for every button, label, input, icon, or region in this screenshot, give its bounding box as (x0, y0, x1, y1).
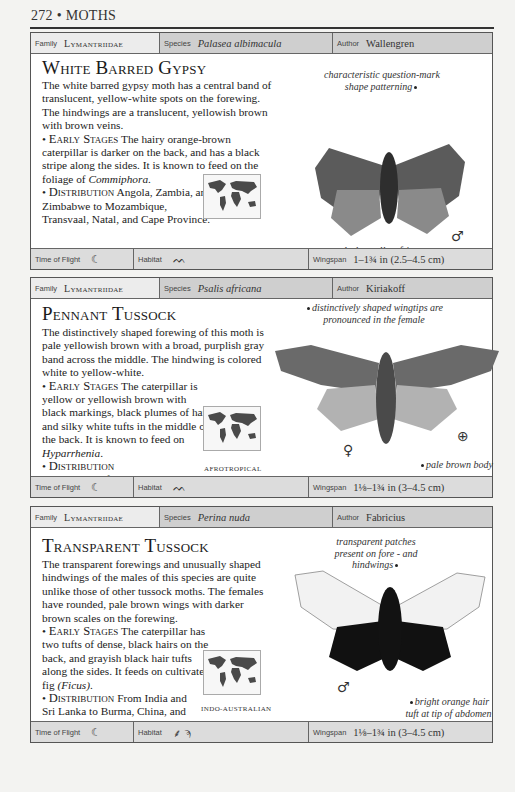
moon-icon: ☾ (91, 253, 101, 266)
moon-icon: ☾ (91, 726, 101, 739)
world-map-icon (204, 651, 260, 694)
moon-icon: ☾ (91, 481, 101, 494)
species-cell: SpeciesPerina nuda (160, 507, 333, 527)
family-cell: FamilyLymantriidae (31, 507, 160, 527)
female-symbol-icon: ♀ (343, 442, 353, 458)
intro-text: The white barred gypsy moth has a centra… (42, 79, 271, 131)
male-symbol-icon: ♂ (451, 228, 464, 244)
wingspan-cell: Wingspan1⅛–1¾ in (3–4.5 cm) (309, 477, 492, 497)
magnifier-icon: ⊕ (457, 428, 469, 444)
species-cell: SpeciesPsalis africana (160, 278, 333, 298)
time-of-flight-cell: Time of Flight☾ (31, 722, 134, 742)
species-cell: SpeciesPalasea albimacula (160, 33, 333, 53)
grassland-icon: ᨓ (173, 481, 186, 494)
world-map-icon (204, 407, 260, 450)
species-entry-transparent-tussock: FamilyLymantriidae SpeciesPerina nuda Au… (30, 506, 493, 743)
world-map (203, 174, 261, 219)
male-symbol-icon: ♂ (337, 679, 350, 695)
world-map (203, 650, 261, 695)
taxonomy-bar: FamilyLymantriidae SpeciesPalasea albima… (31, 33, 492, 54)
world-map-icon (204, 175, 260, 218)
species-title: Transparent Tussock (42, 535, 209, 557)
species-title: Pennant Tussock (42, 303, 176, 325)
moth-illustration (293, 567, 488, 682)
annotation: bright orange hair tuft at tip of abdome… (401, 696, 496, 719)
taxonomy-bar: FamilyLymantriidae SpeciesPsalis african… (31, 278, 492, 299)
wingspan-cell: Wingspan1–1¾ in (2.5–4.5 cm) (309, 249, 492, 269)
region-label: AFROTROPICAL (204, 465, 262, 473)
moth-illustration (309, 128, 469, 238)
annotation: transparent patches present on fore - an… (331, 536, 421, 571)
habitat-cell: Habitat⸙ϡ (134, 722, 309, 742)
grassland-icon: ᨓ (173, 253, 186, 266)
page-header: 272 • MOTHS (31, 8, 116, 24)
world-map (203, 406, 261, 451)
species-entry-pennant-tussock: FamilyLymantriidae SpeciesPsalis african… (30, 277, 493, 498)
time-of-flight-cell: Time of Flight☾ (31, 477, 134, 497)
annotation: pale brown body (411, 459, 501, 471)
annotation: distinctively shaped wingtips are pronou… (299, 302, 449, 325)
time-of-flight-cell: Time of Flight☾ (31, 249, 134, 269)
author-cell: AuthorWallengren (333, 33, 492, 53)
habitat-cell: Habitatᨓ (134, 249, 309, 269)
author-cell: AuthorFabricius (333, 507, 492, 527)
family-cell: FamilyLymantriidae (31, 278, 160, 298)
species-entry-white-barred-gypsy: FamilyLymantriidae SpeciesPalasea albima… (30, 32, 493, 270)
details-bar: Time of Flight☾ Habitatᨓ Wingspan1⅛–1¾ i… (31, 476, 492, 497)
annotation: characteristic question-mark shape patte… (317, 69, 447, 92)
taxonomy-bar: FamilyLymantriidae SpeciesPerina nuda Au… (31, 507, 492, 528)
habitat-cell: Habitatᨓ (134, 477, 309, 497)
cultivated-icon: ⸙ (173, 725, 181, 740)
region-label: INDO-AUSTRALIAN (201, 705, 272, 713)
author-cell: AuthorKiriakoff (333, 278, 492, 298)
family-cell: FamilyLymantriidae (31, 33, 160, 53)
details-bar: Time of Flight☾ Habitat⸙ϡ Wingspan1⅛–1¾ … (31, 721, 492, 742)
header-rule (30, 27, 494, 29)
wingspan-cell: Wingspan1⅛–1¾ in (3–4.5 cm) (309, 722, 492, 742)
palm-tree-icon: ϡ (185, 726, 191, 738)
details-bar: Time of Flight☾ Habitatᨓ Wingspan1–1¾ in… (31, 248, 492, 269)
species-title: White Barred Gypsy (42, 57, 206, 79)
